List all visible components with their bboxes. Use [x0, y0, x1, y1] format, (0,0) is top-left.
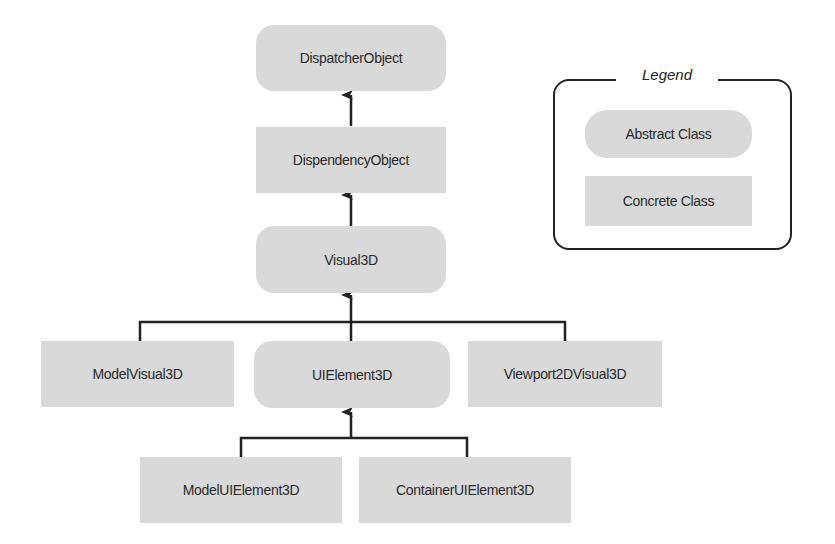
edge-bus-uielement3d-children [241, 438, 467, 457]
node-visual3d: Visual3D [256, 226, 446, 293]
node-label: DispendencyObject [293, 152, 409, 168]
legend-concrete-swatch: Concrete Class [585, 176, 752, 226]
node-container-ui-element3d: ContainerUIElement3D [359, 457, 571, 523]
node-dispatcher-object: DispatcherObject [256, 25, 446, 91]
legend-abstract-swatch: Abstract Class [585, 110, 752, 158]
edge-bus-visual3d-children [140, 322, 565, 341]
node-label: Viewport2DVisual3D [504, 366, 627, 382]
legend-abstract-label: Abstract Class [625, 126, 711, 142]
legend-concrete-label: Concrete Class [623, 193, 715, 209]
node-label: Visual3D [324, 252, 377, 268]
node-label: DispatcherObject [300, 50, 403, 66]
node-model-visual3d: ModelVisual3D [41, 341, 234, 407]
node-label: ModelVisual3D [92, 366, 182, 382]
node-label: ModelUIElement3D [183, 482, 300, 498]
legend-title: Legend [616, 66, 718, 83]
node-dependency-object: DispendencyObject [256, 127, 446, 193]
node-label: UIElement3D [312, 367, 392, 383]
node-model-ui-element3d: ModelUIElement3D [140, 457, 342, 523]
node-viewport2d-visual3d: Viewport2DVisual3D [468, 341, 662, 407]
node-ui-element3d: UIElement3D [254, 341, 450, 408]
node-label: ContainerUIElement3D [396, 482, 534, 498]
